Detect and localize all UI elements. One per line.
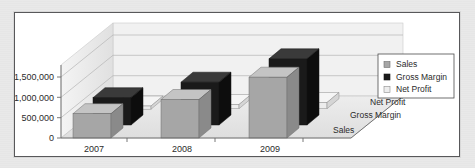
x-axis-category-labels: 2007 2008 2009: [84, 144, 280, 154]
depth-axis-label-gross-margin: Gross Margin: [350, 110, 401, 120]
y-tick-label-1000000: 1,000,000: [15, 93, 54, 103]
bar-sales-2007[interactable]: [73, 104, 123, 138]
legend-label-net-profit: Net Profit: [396, 84, 432, 94]
y-tick-label-0: 0: [49, 133, 54, 143]
legend-label-gross-margin: Gross Margin: [396, 72, 447, 82]
y-axis: [57, 65, 61, 138]
chart-frame: 1,500,000 1,000,000 500,000 0: [14, 12, 460, 157]
screenshot-root: 1,500,000 1,000,000 500,000 0: [0, 0, 475, 168]
legend-swatch-sales-icon: [384, 62, 390, 68]
legend[interactable]: Sales Gross Margin Net Profit: [378, 54, 454, 98]
legend-swatch-net-profit-icon: [384, 87, 390, 93]
x-category-label-2008: 2008: [172, 144, 192, 154]
x-axis: [61, 138, 351, 142]
y-tick-label-500000: 500,000: [21, 113, 54, 123]
x-category-label-2007: 2007: [84, 144, 104, 154]
bar-sales-2009[interactable]: [249, 67, 299, 138]
y-tick-label-1500000: 1,500,000: [15, 72, 54, 82]
chart-canvas[interactable]: 1,500,000 1,000,000 500,000 0: [15, 13, 459, 156]
bar-sales-2008[interactable]: [161, 90, 211, 139]
legend-swatch-gross-margin-icon: [384, 74, 390, 80]
depth-axis-label-sales: Sales: [333, 125, 354, 135]
depth-axis-label-net-profit: Net Profit: [370, 97, 406, 107]
legend-label-sales: Sales: [396, 59, 417, 69]
x-category-label-2009: 2009: [260, 144, 280, 154]
y-axis-tick-labels: 1,500,000 1,000,000 500,000 0: [15, 72, 54, 143]
